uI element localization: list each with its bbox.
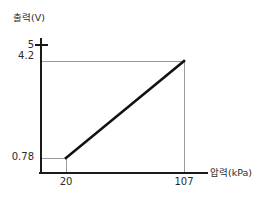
data-series-line bbox=[66, 61, 184, 158]
pressure-output-chart: 출력(V) 압력(kPa) 5 4.2 0.78 20 107 bbox=[0, 0, 264, 201]
plot-area bbox=[0, 0, 264, 201]
